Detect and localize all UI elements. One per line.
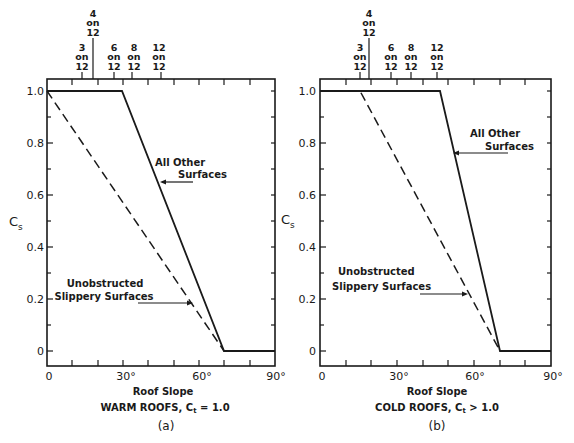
x-axis-label: Roof Slope bbox=[407, 386, 468, 397]
annotation-unobstructed: Unobstructed Slippery Surfaces bbox=[332, 266, 431, 292]
panel-label: (a) bbox=[158, 419, 175, 433]
svg-text:Unobstructed: Unobstructed bbox=[338, 266, 415, 277]
x-tick-labels: 0 30° 60° 90° bbox=[319, 370, 563, 383]
svg-text:12: 12 bbox=[152, 61, 165, 72]
svg-text:12: 12 bbox=[384, 61, 397, 72]
svg-text:Unobstructed: Unobstructed bbox=[67, 278, 144, 289]
svg-text:All Other: All Other bbox=[470, 128, 520, 139]
svg-text:12: 12 bbox=[404, 61, 417, 72]
plot-frame bbox=[320, 79, 551, 366]
svg-text:1.0: 1.0 bbox=[27, 85, 45, 98]
svg-text:12: 12 bbox=[353, 61, 366, 72]
svg-text:12: 12 bbox=[127, 61, 140, 72]
x-axis-label: Roof Slope bbox=[133, 386, 194, 397]
y-axis-label: Cs bbox=[281, 212, 295, 230]
svg-text:0.6: 0.6 bbox=[299, 189, 317, 202]
svg-text:12: 12 bbox=[362, 27, 375, 38]
panel-caption: COLD ROOFS, Ct > 1.0 bbox=[375, 402, 499, 415]
svg-text:12: 12 bbox=[86, 27, 99, 38]
slope-marks bbox=[82, 38, 161, 79]
x-tick-labels: 0 30° 60° 90° bbox=[46, 370, 286, 383]
panel-caption: WARM ROOFS, Ct = 1.0 bbox=[100, 402, 229, 415]
series-all-other-surfaces bbox=[47, 91, 275, 351]
svg-text:0.6: 0.6 bbox=[27, 189, 45, 202]
panel-b: 3 on 12 4 on 12 6 on 12 8 on 12 12 on 12… bbox=[281, 8, 563, 433]
svg-text:0: 0 bbox=[319, 370, 326, 383]
annotation-unobstructed: Unobstructed Slippery Surfaces bbox=[54, 278, 153, 302]
svg-text:Surfaces: Surfaces bbox=[485, 141, 534, 152]
y-tick-labels: 0 0.2 0.4 0.6 0.8 1.0 bbox=[299, 85, 317, 358]
slope-labels: 3 on 12 4 on 12 6 on 12 8 on 12 12 on 12 bbox=[353, 8, 444, 72]
arrowhead-icon bbox=[462, 292, 468, 297]
svg-text:90°: 90° bbox=[266, 370, 286, 383]
svg-text:0.2: 0.2 bbox=[299, 293, 317, 306]
svg-text:0.4: 0.4 bbox=[299, 241, 317, 254]
svg-text:12: 12 bbox=[107, 61, 120, 72]
svg-text:12: 12 bbox=[430, 61, 443, 72]
slope-labels: 3 on 12 4 on 12 6 on 12 8 on 12 12 on 12 bbox=[75, 8, 166, 72]
svg-text:0.4: 0.4 bbox=[27, 241, 45, 254]
y-ticks bbox=[47, 91, 275, 351]
svg-text:All Other: All Other bbox=[155, 157, 205, 168]
svg-text:0.8: 0.8 bbox=[299, 137, 317, 150]
y-tick-labels: 0 0.2 0.4 0.6 0.8 1.0 bbox=[27, 85, 45, 358]
svg-text:0: 0 bbox=[309, 345, 316, 358]
svg-text:60°: 60° bbox=[465, 370, 485, 383]
series-unobstructed-slippery bbox=[47, 91, 275, 351]
svg-text:30°: 30° bbox=[116, 370, 136, 383]
svg-text:Surfaces: Surfaces bbox=[178, 169, 227, 180]
slope-marks bbox=[360, 38, 437, 79]
plot-frame bbox=[47, 79, 275, 366]
figure: 3 on 12 4 on 12 6 on 12 8 on 12 12 on 12… bbox=[0, 0, 574, 443]
x-ticks bbox=[346, 79, 525, 366]
svg-text:Slippery Surfaces: Slippery Surfaces bbox=[332, 281, 431, 292]
svg-text:Slippery Surfaces: Slippery Surfaces bbox=[54, 291, 153, 302]
svg-text:60°: 60° bbox=[192, 370, 212, 383]
annotation-all-other: All Other Surfaces bbox=[155, 157, 227, 180]
svg-text:30°: 30° bbox=[389, 370, 409, 383]
y-axis-label: Cs bbox=[9, 214, 23, 232]
svg-text:0.2: 0.2 bbox=[27, 293, 45, 306]
x-ticks bbox=[72, 79, 250, 366]
panel-a: 3 on 12 4 on 12 6 on 12 8 on 12 12 on 12… bbox=[9, 8, 286, 433]
panel-label: (b) bbox=[429, 419, 446, 433]
svg-text:0.8: 0.8 bbox=[27, 137, 45, 150]
svg-text:1.0: 1.0 bbox=[299, 85, 317, 98]
svg-text:12: 12 bbox=[75, 61, 88, 72]
annotation-all-other: All Other Surfaces bbox=[470, 128, 534, 152]
svg-text:90°: 90° bbox=[543, 370, 563, 383]
arrowhead-icon bbox=[160, 180, 166, 185]
svg-text:0: 0 bbox=[46, 370, 53, 383]
svg-text:0: 0 bbox=[37, 345, 44, 358]
